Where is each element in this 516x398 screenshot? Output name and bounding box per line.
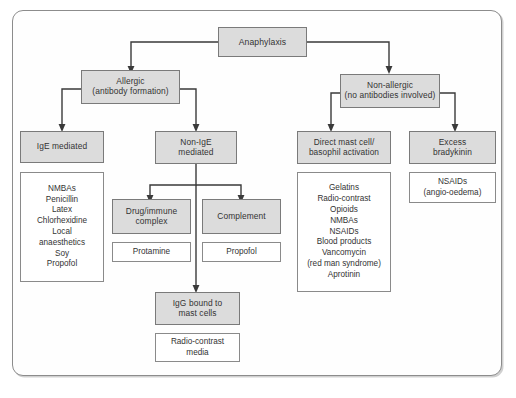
node-igg-bound-line1: IgG bound to — [173, 298, 223, 308]
edge-nonige-drug — [150, 164, 196, 199]
node-drug-immune-line1: Drug/immune — [126, 206, 177, 216]
node-excess-bradykinin: Excess bradykinin — [409, 131, 496, 164]
edge-nonallergic-direct — [331, 93, 340, 128]
node-non-ige-line1: Non-IgE — [180, 137, 211, 147]
edge-nonallergic-bradykinin — [440, 93, 455, 128]
node-allergic-line1: Allergic — [116, 76, 144, 86]
list-propofol: Propofol — [202, 242, 281, 262]
node-complement-label: Complement — [215, 212, 267, 222]
node-ige-mediated: IgE mediated — [20, 131, 104, 163]
node-ige-mediated-label: IgE mediated — [35, 142, 90, 152]
node-excess-bradykinin-line2: bradykinin — [433, 147, 472, 157]
list-ige-agents: NMBAsPenicillinLatexChlorhexidineLocalan… — [20, 172, 104, 282]
node-complement: Complement — [202, 199, 281, 234]
edge-nonige-complement — [196, 185, 241, 199]
node-drug-immune-complex: Drug/immune complex — [112, 199, 191, 234]
list-radio-contrast-media: Radio-contrastmedia — [155, 333, 240, 362]
node-non-allergic-line1: Non-allergic — [367, 80, 413, 90]
node-igg-bound-line2: mast cells — [178, 308, 216, 318]
node-anaphylaxis-label: Anaphylaxis — [237, 37, 288, 47]
node-drug-immune-line2: complex — [136, 216, 168, 226]
node-direct-mast-cell-line2: basophil activation — [309, 147, 379, 157]
node-direct-mast-cell: Direct mast cell/ basophil activation — [297, 131, 391, 164]
list-direct-agents-items: GelatinsRadio-contrastOpioidsNMBAsNSAIDs… — [307, 183, 381, 280]
node-non-allergic: Non-allergic (no antibodies involved) — [340, 74, 440, 108]
edge-allergic-non-ige — [180, 89, 196, 128]
list-direct-mast-cell-agents: GelatinsRadio-contrastOpioidsNMBAsNSAIDs… — [297, 172, 391, 292]
node-igg-bound-mast-cells: IgG bound to mast cells — [155, 292, 240, 325]
list-protamine-items: Protamine — [133, 247, 170, 258]
list-protamine: Protamine — [112, 242, 191, 262]
list-propofol-items: Propofol — [226, 247, 257, 258]
node-non-ige-line2: mediated — [178, 147, 213, 157]
anaphylaxis-classification-figure: Anaphylaxis Allergic (antibody formation… — [0, 0, 516, 398]
node-direct-mast-cell-line1: Direct mast cell/ — [314, 137, 375, 147]
list-bradykinin-agents: NSAIDs(angio-oedema) — [409, 172, 496, 203]
list-bradykinin-agents-items: NSAIDs(angio-oedema) — [424, 177, 482, 199]
node-non-ige-mediated: Non-IgE mediated — [155, 131, 237, 164]
node-allergic: Allergic (antibody formation) — [81, 70, 180, 104]
node-non-allergic-line2: (no antibodies involved) — [345, 90, 436, 100]
list-radio-contrast-items: Radio-contrastmedia — [171, 337, 224, 359]
list-ige-agents-items: NMBAsPenicillinLatexChlorhexidineLocalan… — [37, 184, 87, 271]
edge-anaphylaxis-allergic — [131, 42, 218, 70]
edge-allergic-ige — [62, 89, 81, 128]
node-excess-bradykinin-line1: Excess — [439, 137, 467, 147]
node-anaphylaxis: Anaphylaxis — [218, 27, 307, 57]
node-allergic-line2: (antibody formation) — [92, 86, 168, 96]
edge-anaphylaxis-non-allergic — [307, 42, 389, 70]
